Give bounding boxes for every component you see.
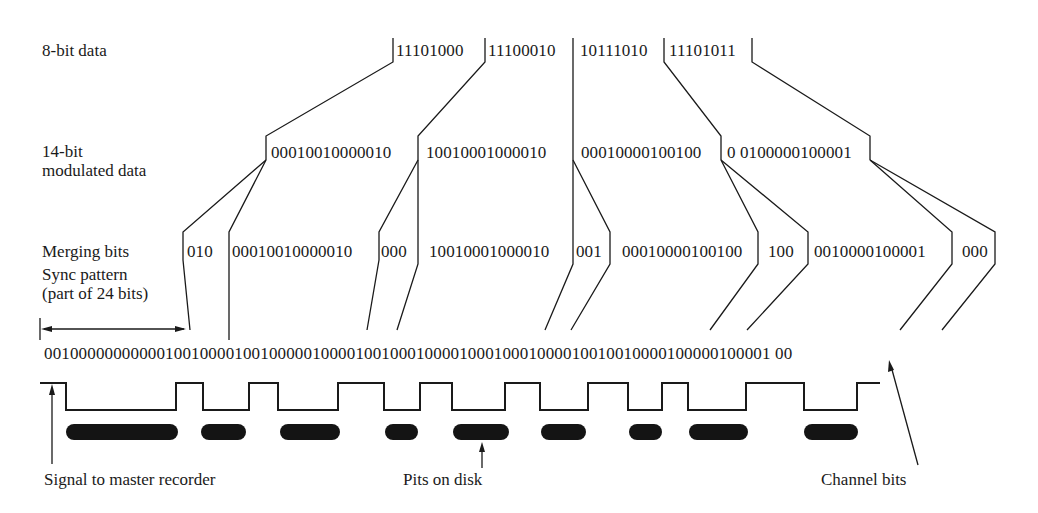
pits-arrow-icon (479, 442, 485, 452)
pit-4 (385, 424, 418, 440)
efm-diagram: 8-bit data 14-bit modulated data Merging… (0, 0, 1038, 513)
bracket-8bit-1 (266, 38, 393, 160)
pit-7 (629, 424, 662, 440)
fan-14-5b (870, 160, 995, 330)
channel-bits-arrow-line (891, 366, 918, 465)
pit-5 (453, 424, 509, 440)
fan-14-5a (870, 160, 952, 330)
fan-14-2a (367, 160, 418, 330)
fan-14-2b (397, 160, 418, 330)
bracket-8bit-5 (752, 38, 870, 160)
fan-14-3a (545, 160, 573, 330)
fan-14-3b (571, 160, 610, 330)
bracket-8bit-4 (664, 38, 721, 160)
channel-bits-arrow-icon (888, 360, 894, 372)
sync-arrow-left-icon (41, 326, 52, 332)
signal-arrow-icon (49, 384, 55, 395)
diagram-lines (0, 0, 1038, 513)
bracket-8bit-2 (418, 38, 485, 160)
signal-waveform (40, 383, 880, 410)
pit-8 (689, 424, 748, 440)
pit-2 (201, 424, 246, 440)
pit-1 (66, 424, 178, 440)
pit-6 (541, 424, 586, 440)
sync-arrow-right-icon (175, 326, 186, 332)
pit-9 (804, 424, 858, 440)
pit-3 (280, 424, 340, 440)
